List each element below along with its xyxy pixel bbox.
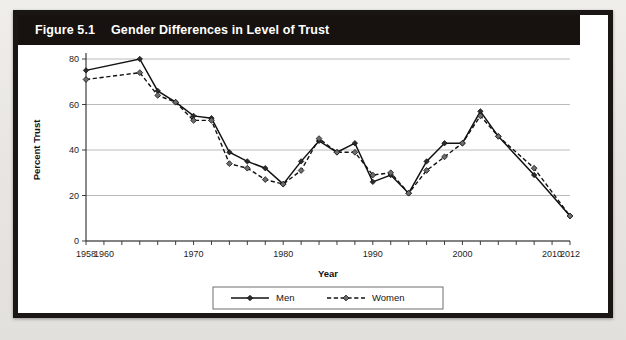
y-axis-ticks-group: 020406080 [69, 54, 86, 246]
x-tick-label: 1990 [363, 249, 383, 259]
x-tick-label: 1960 [94, 249, 114, 259]
figure-number-label: Figure 5.1 [35, 23, 95, 37]
x-axis-title: Year [318, 268, 338, 279]
figure-title-banner: Figure 5.1 Gender Differences in Level o… [18, 15, 608, 45]
data-point-women [262, 177, 268, 183]
x-axis-ticks-group: 19581960197019801990200020102012 [76, 241, 580, 259]
chart-area: 020406080 195819601970198019902000201020… [18, 45, 608, 313]
data-point-men [352, 140, 357, 145]
x-tick-label: 2012 [560, 249, 580, 259]
data-point-men [245, 159, 250, 164]
y-axis-title: Percent Trust [31, 119, 42, 181]
data-point-men [370, 179, 375, 184]
data-point-women [227, 161, 233, 167]
legend-label-men: Men [276, 292, 294, 303]
y-tick-label: 20 [69, 191, 79, 201]
data-point-women [155, 93, 161, 99]
legend-label-women: Women [372, 292, 405, 303]
data-point-men [83, 68, 88, 73]
data-series-group [83, 56, 573, 219]
figure-title-text: Gender Differences in Level of Trust [111, 23, 329, 37]
x-tick-label: 1970 [184, 249, 204, 259]
data-point-women [298, 168, 304, 174]
trust-line-chart: 020406080 195819601970198019902000201020… [18, 45, 608, 313]
chart-legend: MenWomen [213, 287, 443, 309]
x-tick-label: 1980 [273, 249, 293, 259]
y-tick-label: 80 [69, 54, 79, 64]
x-tick-label: 2000 [452, 249, 472, 259]
banner-corner-notch [580, 15, 608, 45]
y-tick-label: 40 [69, 145, 79, 155]
figure-container: Figure 5.1 Gender Differences in Level o… [13, 10, 613, 318]
y-tick-label: 0 [74, 236, 79, 246]
data-point-women [83, 77, 89, 83]
data-point-women [460, 140, 466, 146]
y-tick-label: 60 [69, 100, 79, 110]
gridlines-group [86, 59, 570, 241]
